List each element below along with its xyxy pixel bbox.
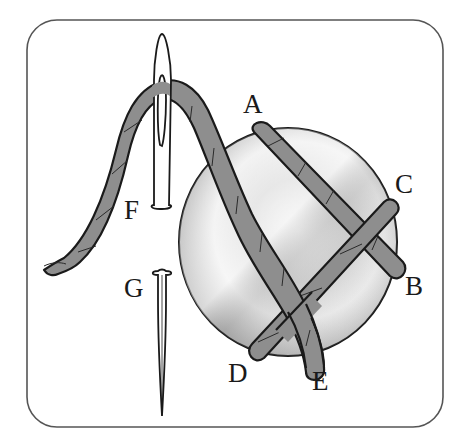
label-d: D [228,358,248,388]
label-c: C [395,169,413,199]
label-f: F [124,195,139,225]
needle-eye-half [152,34,172,209]
label-a: A [243,89,263,119]
label-e: E [312,366,329,396]
label-b: B [405,271,423,301]
label-g: G [124,273,144,303]
button-sewing-diagram: A B C D E F G [0,0,468,445]
